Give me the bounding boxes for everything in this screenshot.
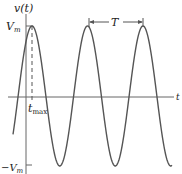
- sinusoid-curve: [13, 26, 172, 166]
- sinusoid-diagram: v(t) t Vm −Vm tmax T: [0, 0, 182, 174]
- diagram-canvas: v(t) t Vm −Vm tmax T: [0, 0, 182, 174]
- tmax-label: tmax: [28, 102, 47, 116]
- vm-label: Vm: [6, 20, 21, 34]
- x-axis-label: t: [176, 92, 180, 102]
- arrowhead-left-icon: [89, 20, 94, 24]
- neg-vm-label: −Vm: [1, 162, 24, 174]
- arrowhead-right-icon: [138, 20, 143, 24]
- y-axis-label: v(t): [14, 2, 33, 15]
